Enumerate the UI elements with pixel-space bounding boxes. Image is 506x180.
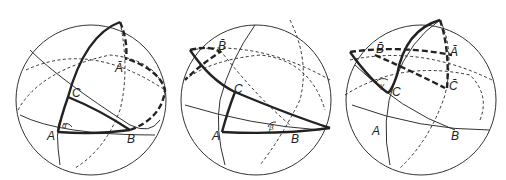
label-cbar: C̄ bbox=[449, 79, 458, 93]
label-a: A bbox=[46, 129, 55, 143]
sphere-left: Ā C A B α bbox=[16, 22, 166, 175]
sphere-outline bbox=[346, 25, 496, 175]
label-a: A bbox=[371, 124, 380, 138]
label-c: C bbox=[234, 82, 243, 96]
label-bbar: B̄ bbox=[218, 39, 226, 53]
sphere-right: B̄ Ā C̄ C A B γ bbox=[345, 20, 496, 175]
label-a: A bbox=[211, 129, 220, 143]
sphere-middle: B̄ C A B β bbox=[181, 20, 331, 175]
diagram-canvas: Ā C A B α B̄ C A B β bbox=[0, 0, 506, 180]
label-c: C bbox=[72, 86, 81, 100]
label-beta: β bbox=[268, 123, 274, 132]
label-abar: Ā bbox=[114, 61, 123, 75]
label-bbar: B̄ bbox=[376, 42, 384, 56]
sphere-outline bbox=[16, 25, 166, 175]
label-c: C bbox=[392, 85, 401, 99]
label-b: B bbox=[291, 132, 299, 146]
label-b: B bbox=[451, 129, 459, 143]
label-b: B bbox=[127, 132, 135, 146]
label-alpha: α bbox=[62, 121, 67, 130]
label-abar: Ā bbox=[449, 45, 458, 59]
